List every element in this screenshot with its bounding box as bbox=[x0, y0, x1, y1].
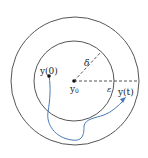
delta-label: δ bbox=[84, 58, 89, 68]
equilibrium-point bbox=[72, 79, 76, 83]
stability-diagram: y(0) y0 δ ε y(t) bbox=[0, 0, 148, 158]
epsilon-label: ε bbox=[107, 85, 111, 94]
trajectory-arrowhead bbox=[120, 97, 126, 103]
trajectory-curve bbox=[48, 76, 124, 140]
equilibrium-label: y0 bbox=[69, 84, 79, 94]
trajectory-point-label: y(t) bbox=[117, 87, 134, 97]
initial-point-label: y(0) bbox=[39, 66, 58, 76]
